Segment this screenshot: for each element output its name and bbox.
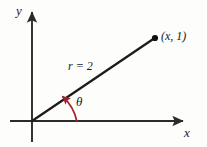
point-coordinate-label: (x, 1): [161, 30, 186, 42]
figure-canvas: [0, 0, 207, 147]
x-axis-label: x: [184, 126, 190, 139]
y-axis-label: y: [16, 4, 22, 17]
terminal-point-dot: [152, 35, 158, 41]
angle-theta-label: θ: [76, 95, 82, 108]
polar-ray-figure: y x (x, 1) r = 2 θ: [0, 0, 207, 147]
radius-ray-line: [32, 39, 154, 122]
radius-value-label: r = 2: [68, 60, 93, 72]
angle-arc-path: [63, 97, 78, 123]
